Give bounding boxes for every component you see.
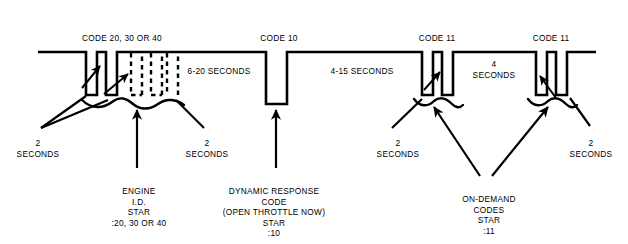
label-2-seconds-right-outer-line1: 2 bbox=[589, 138, 594, 148]
label-2-seconds-right-inner-line2: SECONDS bbox=[377, 149, 420, 159]
label-interval-4-seconds-line1: 4 bbox=[492, 59, 497, 69]
leader-2-seconds-right-inner bbox=[392, 99, 422, 128]
leader-on-demand-codes bbox=[434, 107, 548, 176]
leader-2-seconds-mid bbox=[176, 100, 204, 128]
label-2-seconds-left-line2: SECONDS bbox=[17, 149, 60, 159]
caption-dynamic-response: DYNAMIC RESPONSECODE(OPEN THROTTLE NOW)S… bbox=[223, 186, 325, 239]
label-code-10: CODE 10 bbox=[260, 33, 297, 44]
dashed-variable-pulses bbox=[131, 53, 178, 95]
label-interval-4-seconds: 4SECONDS bbox=[473, 59, 516, 80]
label-interval-4-15-seconds: 4-15 SECONDS bbox=[331, 66, 394, 77]
label-2-seconds-mid-line1: 2 bbox=[205, 138, 210, 148]
caption-dynamic-response-line-4: STAR bbox=[263, 218, 286, 228]
label-2-seconds-left: 2SECONDS bbox=[17, 138, 60, 159]
caption-dynamic-response-line-1: DYNAMIC RESPONSE bbox=[229, 186, 320, 196]
label-interval-4-seconds-line2: SECONDS bbox=[473, 70, 516, 80]
caption-on-demand-codes: ON-DEMANDCODESSTAR:11 bbox=[462, 194, 515, 236]
label-2-seconds-right-outer: 2SECONDS bbox=[570, 138, 613, 159]
group-brace-code-11-second bbox=[528, 98, 577, 107]
caption-engine-id-star: ENGINEI.D.STAR:20, 30 OR 40 bbox=[112, 186, 167, 228]
label-2-seconds-right-outer-line2: SECONDS bbox=[570, 149, 613, 159]
caption-dynamic-response-line-5: :10 bbox=[268, 228, 280, 238]
label-code-11-second: CODE 11 bbox=[533, 33, 570, 44]
caption-dynamic-response-line-3: (OPEN THROTTLE NOW) bbox=[223, 207, 325, 217]
caption-dynamic-response-line-2: CODE bbox=[262, 197, 287, 207]
caption-engine-id-line-4: :20, 30 OR 40 bbox=[112, 218, 167, 228]
label-code-11-first: CODE 11 bbox=[419, 33, 456, 44]
label-2-seconds-left-line1: 2 bbox=[36, 138, 41, 148]
label-2-seconds-mid-line2: SECONDS bbox=[186, 149, 229, 159]
caption-on-demand-line-1: ON-DEMAND bbox=[462, 194, 515, 204]
leader-2-seconds-right-outer bbox=[570, 98, 590, 126]
label-code-20-30-40: CODE 20, 30 OR 40 bbox=[82, 33, 162, 44]
label-2-seconds-mid: 2SECONDS bbox=[186, 138, 229, 159]
leader-2-seconds-left bbox=[41, 96, 108, 128]
label-interval-6-20-seconds: 6-20 SECONDS bbox=[188, 66, 251, 77]
label-2-seconds-right-inner-line1: 2 bbox=[396, 138, 401, 148]
caption-on-demand-line-4: :11 bbox=[483, 226, 495, 236]
flash-code-timing-diagram: CODE 20, 30 OR 40 CODE 10 CODE 11 CODE 1… bbox=[0, 0, 628, 244]
caption-engine-id-line-2: I.D. bbox=[132, 197, 146, 207]
caption-engine-id-line-3: STAR bbox=[128, 207, 151, 217]
caption-on-demand-line-2: CODES bbox=[474, 205, 505, 215]
caption-engine-id-line-1: ENGINE bbox=[122, 186, 155, 196]
caption-on-demand-line-3: STAR bbox=[478, 215, 501, 225]
label-2-seconds-right-inner: 2SECONDS bbox=[377, 138, 420, 159]
